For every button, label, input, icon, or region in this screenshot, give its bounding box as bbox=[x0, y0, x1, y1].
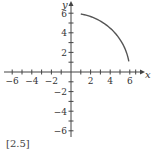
y-tick-label: −4 bbox=[54, 107, 68, 117]
x-tick-label: −4 bbox=[25, 76, 39, 86]
figure-caption: [2.5] bbox=[6, 138, 30, 149]
y-tick-label: −2 bbox=[54, 87, 67, 97]
y-tick-label: 2 bbox=[61, 48, 67, 58]
y-tick-label: 6 bbox=[61, 9, 67, 19]
plot-area: −6−4−2246−6−4−2246 x y bbox=[0, 0, 152, 154]
y-tick-label: −6 bbox=[54, 126, 68, 136]
y-axis-label: y bbox=[61, 0, 68, 10]
x-axis-label: x bbox=[145, 69, 151, 80]
x-tick-label: 2 bbox=[88, 76, 94, 86]
x-tick-label: 6 bbox=[127, 76, 133, 86]
y-arrow-icon bbox=[69, 1, 74, 6]
x-tick-label: −6 bbox=[6, 76, 20, 86]
curve-line bbox=[81, 14, 129, 61]
x-tick-label: 4 bbox=[107, 76, 113, 86]
axes bbox=[4, 1, 145, 137]
y-tick-label: 4 bbox=[61, 28, 67, 38]
x-tick-label: −2 bbox=[45, 76, 58, 86]
